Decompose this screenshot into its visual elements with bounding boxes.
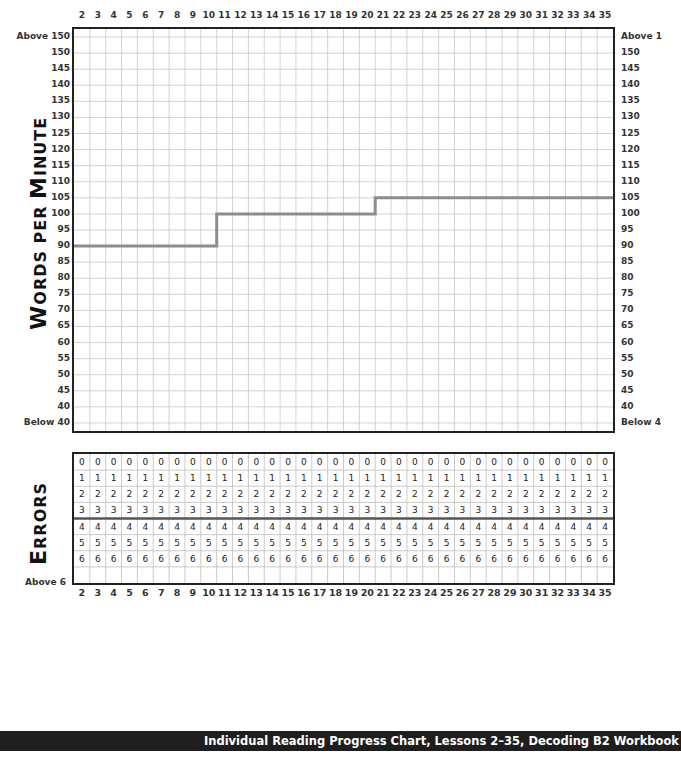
error-count-cell[interactable]: 5: [534, 535, 550, 551]
error-count-cell[interactable]: 4: [597, 519, 613, 535]
error-count-cell[interactable]: 1: [74, 470, 90, 486]
error-count-cell[interactable]: 3: [90, 502, 106, 518]
error-count-cell[interactable]: 5: [359, 535, 375, 551]
error-count-cell[interactable]: 6: [454, 551, 470, 567]
error-count-cell[interactable]: 1: [597, 470, 613, 486]
error-count-cell[interactable]: 6: [137, 551, 153, 567]
error-count-cell[interactable]: 2: [534, 486, 550, 502]
error-count-cell[interactable]: 3: [137, 502, 153, 518]
error-count-cell[interactable]: 2: [312, 486, 328, 502]
error-count-cell[interactable]: 2: [391, 486, 407, 502]
error-count-cell[interactable]: 0: [137, 454, 153, 470]
error-count-cell[interactable]: 1: [375, 470, 391, 486]
error-count-cell[interactable]: 5: [454, 535, 470, 551]
error-count-cell[interactable]: 0: [486, 454, 502, 470]
error-count-cell[interactable]: 0: [407, 454, 423, 470]
error-count-cell[interactable]: 6: [328, 551, 344, 567]
error-count-cell[interactable]: 3: [264, 502, 280, 518]
error-count-cell[interactable]: 1: [328, 470, 344, 486]
error-count-cell[interactable]: 3: [248, 502, 264, 518]
error-count-cell[interactable]: 1: [232, 470, 248, 486]
error-count-cell[interactable]: 6: [439, 551, 455, 567]
error-count-cell[interactable]: 1: [264, 470, 280, 486]
error-count-cell[interactable]: 5: [137, 535, 153, 551]
error-count-cell[interactable]: 6: [502, 551, 518, 567]
error-count-cell[interactable]: 4: [280, 519, 296, 535]
error-count-cell[interactable]: 0: [185, 454, 201, 470]
error-count-cell[interactable]: 6: [121, 551, 137, 567]
error-count-cell[interactable]: 3: [407, 502, 423, 518]
error-count-cell[interactable]: 3: [391, 502, 407, 518]
error-count-cell[interactable]: 4: [359, 519, 375, 535]
error-count-cell[interactable]: 0: [74, 454, 90, 470]
error-count-cell[interactable]: 0: [581, 454, 597, 470]
error-count-cell[interactable]: 6: [407, 551, 423, 567]
error-count-cell[interactable]: 5: [264, 535, 280, 551]
error-count-cell[interactable]: 0: [217, 454, 233, 470]
error-count-cell[interactable]: 1: [439, 470, 455, 486]
error-count-cell[interactable]: 1: [550, 470, 566, 486]
error-count-cell[interactable]: 3: [470, 502, 486, 518]
error-count-cell[interactable]: 0: [343, 454, 359, 470]
error-count-cell[interactable]: 0: [153, 454, 169, 470]
error-count-cell[interactable]: 5: [565, 535, 581, 551]
error-count-cell[interactable]: 4: [232, 519, 248, 535]
error-count-cell[interactable]: 6: [201, 551, 217, 567]
error-count-cell[interactable]: 5: [581, 535, 597, 551]
error-count-cell[interactable]: 6: [153, 551, 169, 567]
error-count-cell[interactable]: 5: [470, 535, 486, 551]
error-count-cell[interactable]: 6: [217, 551, 233, 567]
error-count-cell[interactable]: 1: [534, 470, 550, 486]
error-count-cell[interactable]: 3: [502, 502, 518, 518]
error-count-cell[interactable]: 0: [439, 454, 455, 470]
error-count-cell[interactable]: 1: [312, 470, 328, 486]
error-count-cell[interactable]: 5: [391, 535, 407, 551]
error-count-cell[interactable]: 1: [217, 470, 233, 486]
error-count-cell[interactable]: 1: [90, 470, 106, 486]
error-count-cell[interactable]: 2: [153, 486, 169, 502]
error-count-cell[interactable]: 5: [185, 535, 201, 551]
error-count-cell[interactable]: 6: [565, 551, 581, 567]
error-count-cell[interactable]: 1: [169, 470, 185, 486]
error-count-cell[interactable]: 6: [90, 551, 106, 567]
error-count-cell[interactable]: 6: [550, 551, 566, 567]
error-count-cell[interactable]: 6: [359, 551, 375, 567]
error-count-cell[interactable]: 6: [534, 551, 550, 567]
error-count-cell[interactable]: 2: [581, 486, 597, 502]
error-count-cell[interactable]: 3: [296, 502, 312, 518]
error-count-cell[interactable]: 0: [328, 454, 344, 470]
error-count-cell[interactable]: 6: [185, 551, 201, 567]
error-count-cell[interactable]: 5: [217, 535, 233, 551]
error-count-cell[interactable]: 6: [486, 551, 502, 567]
error-count-cell[interactable]: 3: [232, 502, 248, 518]
error-count-cell[interactable]: 0: [169, 454, 185, 470]
error-count-cell[interactable]: 3: [343, 502, 359, 518]
error-count-cell[interactable]: 4: [264, 519, 280, 535]
error-count-cell[interactable]: 6: [248, 551, 264, 567]
error-count-cell[interactable]: 0: [597, 454, 613, 470]
error-count-cell[interactable]: 4: [74, 519, 90, 535]
error-count-cell[interactable]: 6: [106, 551, 122, 567]
error-count-cell[interactable]: 4: [185, 519, 201, 535]
error-count-cell[interactable]: 0: [280, 454, 296, 470]
error-count-cell[interactable]: 4: [217, 519, 233, 535]
error-count-cell[interactable]: 6: [470, 551, 486, 567]
error-count-cell[interactable]: 3: [550, 502, 566, 518]
error-count-cell[interactable]: 5: [90, 535, 106, 551]
error-count-cell[interactable]: 4: [454, 519, 470, 535]
error-count-cell[interactable]: 1: [201, 470, 217, 486]
error-count-cell[interactable]: 3: [280, 502, 296, 518]
error-count-cell[interactable]: 0: [232, 454, 248, 470]
error-count-cell[interactable]: 1: [454, 470, 470, 486]
error-count-cell[interactable]: 0: [550, 454, 566, 470]
error-count-cell[interactable]: 2: [565, 486, 581, 502]
error-count-cell[interactable]: 5: [121, 535, 137, 551]
error-count-cell[interactable]: 4: [296, 519, 312, 535]
error-count-cell[interactable]: 5: [280, 535, 296, 551]
error-count-cell[interactable]: 4: [90, 519, 106, 535]
error-count-cell[interactable]: 0: [375, 454, 391, 470]
error-count-cell[interactable]: 5: [423, 535, 439, 551]
error-count-cell[interactable]: 5: [597, 535, 613, 551]
error-count-cell[interactable]: 1: [137, 470, 153, 486]
error-count-cell[interactable]: 2: [137, 486, 153, 502]
